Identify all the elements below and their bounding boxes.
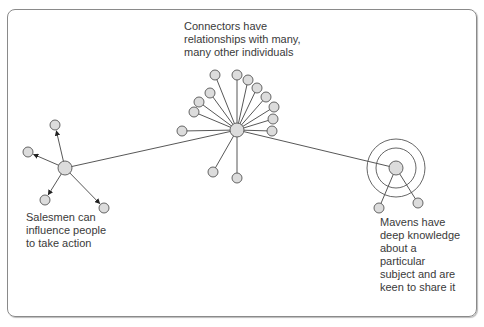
maven-satellite-node [413, 198, 423, 208]
connector-satellite-node [205, 88, 215, 98]
connectors-caption-line: relationships with many, [184, 33, 334, 46]
salesman-target-node [23, 147, 33, 157]
connector-satellite-node [194, 97, 204, 107]
maven-hub-node [389, 161, 403, 175]
edges [34, 75, 418, 208]
connector-satellite-node [189, 107, 199, 117]
connector-hub-node [230, 123, 244, 137]
mavens-caption-line: subject and are [380, 268, 480, 281]
salesman-target-node [50, 120, 60, 130]
connector-satellite-node [208, 167, 218, 177]
connector-satellite-node [268, 114, 278, 124]
connector-satellite-node [232, 173, 242, 183]
salesmen-caption-line: influence people [26, 224, 136, 237]
connector-satellite-node [243, 75, 253, 85]
salesman-arrow-edge [65, 168, 100, 204]
connectors-caption: Connectors have relationships with many,… [184, 20, 334, 59]
maven-satellite-node [374, 203, 384, 213]
connector-satellite-node [232, 70, 242, 80]
connector-satellite-node [252, 83, 262, 93]
mavens-caption-line: keen to share it [380, 281, 480, 294]
mavens-caption: Mavens have deep knowledge about a parti… [380, 216, 480, 294]
salesman-hub-node [58, 161, 72, 175]
connector-satellite-node [267, 126, 277, 136]
mavens-caption-line: Mavens have [380, 216, 480, 229]
connector-satellite-node [261, 92, 271, 102]
mavens-caption-line: particular [380, 255, 480, 268]
connectors-caption-line: Connectors have [184, 20, 334, 33]
hub-link-edge [65, 130, 237, 168]
salesmen-caption-line: to take action [26, 237, 136, 250]
connector-satellite-node [269, 102, 279, 112]
salesmen-caption-line: Salesmen can [26, 211, 136, 224]
mavens-caption-line: deep knowledge [380, 229, 480, 242]
nodes [23, 70, 423, 213]
mavens-caption-line: about a [380, 242, 480, 255]
connector-edge [182, 130, 237, 131]
salesmen-caption: Salesmen can influence people to take ac… [26, 211, 136, 250]
hub-link-edge [237, 130, 396, 168]
connector-satellite-node [210, 70, 220, 80]
salesman-target-node [40, 195, 50, 205]
connector-edge [237, 80, 248, 130]
connector-satellite-node [177, 126, 187, 136]
connectors-caption-line: many other individuals [184, 46, 334, 59]
